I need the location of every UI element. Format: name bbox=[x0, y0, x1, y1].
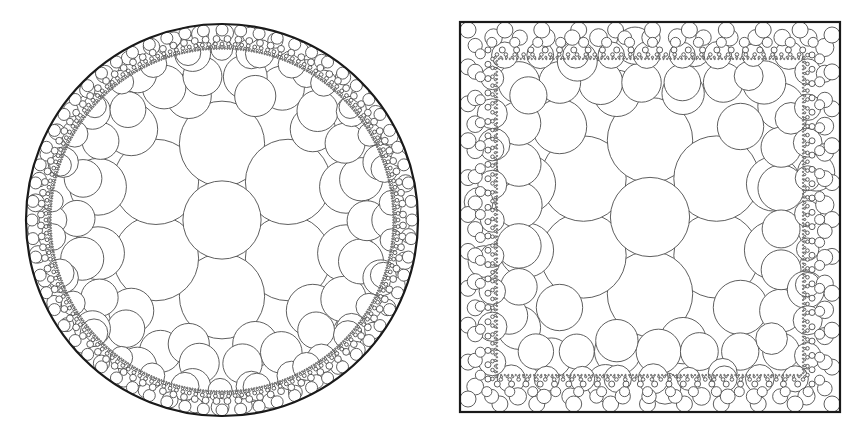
packing-circle bbox=[788, 53, 792, 57]
packing-circle bbox=[802, 244, 803, 245]
packing-circle bbox=[564, 58, 565, 59]
packing-circle bbox=[802, 105, 803, 106]
packing-circle bbox=[585, 374, 586, 375]
packing-circle bbox=[496, 108, 497, 109]
packing-circle bbox=[496, 276, 497, 277]
packing-circle bbox=[485, 190, 491, 196]
packing-circle bbox=[802, 58, 803, 59]
packing-circle bbox=[460, 133, 476, 149]
packing-circle bbox=[694, 374, 695, 375]
packing-circle bbox=[717, 103, 763, 149]
packing-circle bbox=[643, 374, 644, 375]
packing-circle bbox=[654, 374, 655, 375]
packing-circle bbox=[802, 259, 803, 260]
packing-circle bbox=[514, 47, 520, 53]
packing-circle bbox=[809, 281, 815, 287]
packing-circle bbox=[806, 142, 810, 146]
packing-circle bbox=[802, 61, 803, 62]
packing-circle bbox=[802, 336, 803, 337]
packing-circle bbox=[787, 58, 788, 59]
packing-circle bbox=[815, 215, 825, 225]
packing-circle bbox=[692, 58, 693, 59]
packing-circle bbox=[513, 53, 517, 57]
packing-circle bbox=[736, 376, 738, 378]
packing-circle bbox=[647, 374, 648, 375]
packing-circle bbox=[804, 308, 806, 310]
packing-circle bbox=[806, 98, 810, 102]
packing-circle bbox=[544, 374, 545, 375]
packing-circle bbox=[577, 374, 578, 375]
packing-circle bbox=[809, 224, 815, 230]
packing-circle bbox=[637, 53, 641, 57]
packing-circle bbox=[802, 109, 803, 110]
packing-circle bbox=[802, 186, 803, 187]
packing-circle bbox=[735, 374, 736, 375]
packing-circle bbox=[565, 30, 580, 45]
packing-circle bbox=[714, 47, 720, 53]
packing-circle bbox=[804, 370, 806, 372]
packing-circle bbox=[568, 58, 569, 59]
packing-circle bbox=[562, 56, 564, 58]
packing-circle bbox=[768, 374, 769, 375]
packing-circle bbox=[754, 58, 755, 59]
packing-circle bbox=[496, 258, 497, 259]
packing-circle bbox=[671, 47, 677, 53]
packing-circle bbox=[728, 47, 734, 53]
packing-circle bbox=[485, 276, 491, 282]
packing-circle bbox=[538, 58, 539, 59]
packing-circle bbox=[802, 252, 803, 253]
packing-circle bbox=[491, 244, 495, 248]
packing-circle bbox=[622, 63, 661, 102]
packing-circle bbox=[806, 231, 810, 235]
packing-circle bbox=[769, 58, 770, 59]
packing-circle bbox=[496, 368, 497, 369]
packing-circle bbox=[536, 284, 582, 330]
packing-circle bbox=[603, 374, 604, 375]
packing-circle bbox=[615, 378, 619, 382]
packing-circle bbox=[802, 127, 803, 128]
packing-circle bbox=[475, 49, 485, 59]
packing-circle bbox=[496, 67, 497, 68]
packing-circle bbox=[496, 254, 497, 255]
packing-circle bbox=[809, 66, 815, 72]
packing-circle bbox=[475, 141, 485, 151]
packing-circle bbox=[791, 58, 792, 59]
packing-circle bbox=[526, 378, 530, 382]
packing-circle bbox=[502, 58, 503, 59]
packing-circle bbox=[496, 236, 497, 237]
packing-circle bbox=[824, 64, 840, 80]
packing-circle bbox=[705, 374, 706, 375]
packing-circle bbox=[485, 47, 491, 53]
packing-circle bbox=[784, 58, 785, 59]
packing-circle bbox=[496, 119, 497, 120]
packing-circle bbox=[797, 374, 798, 375]
packing-circle bbox=[802, 281, 803, 282]
packing-circle bbox=[530, 374, 531, 375]
packing-circle bbox=[599, 47, 605, 53]
packing-circle bbox=[771, 374, 772, 375]
packing-circle bbox=[802, 369, 803, 370]
packing-circle bbox=[782, 374, 783, 375]
packing-circle bbox=[494, 62, 496, 64]
packing-circle bbox=[491, 359, 495, 363]
packing-circle bbox=[496, 177, 497, 178]
packing-circle bbox=[739, 378, 743, 382]
packing-circle bbox=[623, 381, 629, 387]
packing-circle bbox=[641, 58, 642, 59]
packing-circle bbox=[491, 119, 495, 123]
packing-circle bbox=[725, 58, 726, 59]
packing-circle bbox=[666, 58, 667, 59]
packing-circle bbox=[773, 58, 774, 59]
packing-circle bbox=[802, 182, 803, 183]
packing-circle bbox=[496, 346, 497, 347]
packing-circle bbox=[496, 357, 497, 358]
packing-circle bbox=[645, 58, 646, 59]
packing-circle bbox=[615, 58, 616, 59]
packing-circle bbox=[496, 203, 497, 204]
packing-circle bbox=[531, 53, 535, 57]
packing-circle bbox=[496, 338, 497, 339]
packing-circle bbox=[771, 47, 777, 53]
packing-circle bbox=[496, 130, 497, 131]
packing-circle bbox=[485, 362, 491, 368]
packing-circle bbox=[741, 56, 743, 58]
